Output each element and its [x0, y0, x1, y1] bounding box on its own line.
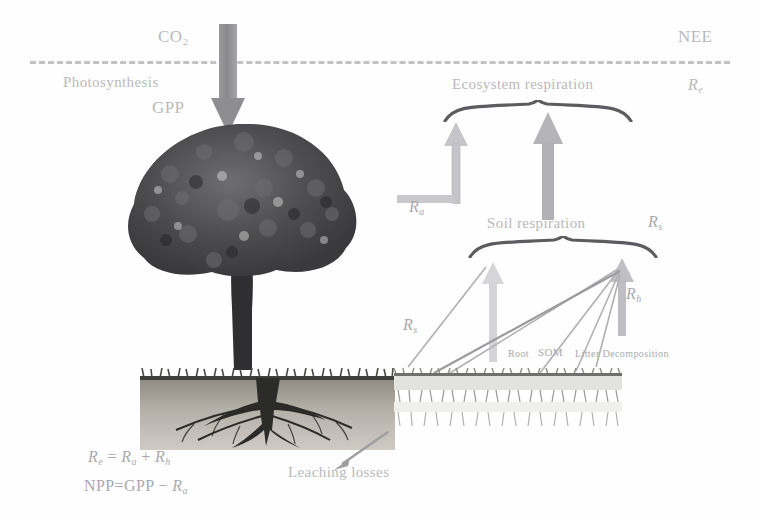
soil-respiration-symbol: R	[648, 213, 658, 230]
soil-respiration-symbol-label: Rs	[648, 213, 662, 232]
up-arrow-icon-soil-respiration	[533, 112, 563, 220]
soil-hatched-layer	[394, 368, 622, 440]
leaching-losses-label: Leaching losses	[288, 464, 389, 481]
eq1-operator-1: =	[107, 448, 116, 465]
nee-symbol: R	[688, 76, 698, 93]
co2-label: CO₂	[158, 27, 189, 47]
ecosystem-respiration-label: Ecosystem respiration	[452, 76, 593, 93]
equation-npp: NPP=GPP − Ra	[84, 477, 188, 496]
eq2-lhs: NPP	[84, 477, 115, 494]
nee-symbol-subscript: e	[698, 84, 703, 95]
nee-label: NEE	[678, 27, 712, 47]
arrow-shaft	[542, 142, 554, 220]
eq1-lhs: R	[88, 448, 98, 465]
eq1-term-2: R	[155, 448, 165, 465]
soil-respiration-subscript: s	[658, 221, 662, 232]
litter-decomposition-label: Litter Decomposition	[575, 348, 669, 359]
root-label: Root	[508, 348, 529, 359]
arrow-shaft	[219, 24, 237, 102]
eq2-term-1: GPP	[124, 477, 154, 494]
tree-icon	[118, 118, 368, 380]
atmosphere-boundary-dashed-line	[30, 61, 730, 64]
figure-canvas: CO₂ NEE Re Photosynthesis GPP Ecosystem …	[0, 0, 761, 518]
autotrophic-subscript: a	[419, 206, 424, 217]
equation-ecosystem-respiration: Re = Ra + Rh	[88, 448, 171, 467]
som-label: SOM	[538, 346, 563, 358]
autotrophic-connector-line	[397, 195, 455, 203]
eq1-operator-2: +	[141, 448, 150, 465]
eq1-term-1-subscript: a	[131, 456, 136, 467]
autotrophic-symbol: R	[409, 198, 419, 215]
eq2-term-2-subscript: a	[182, 485, 187, 496]
eq1-term-1: R	[121, 448, 131, 465]
soil-respiration-label: Soil respiration	[487, 215, 585, 232]
arrow-head	[533, 112, 563, 144]
eq1-term-2-subscript: h	[165, 456, 170, 467]
photosynthesis-label: Photosynthesis	[63, 74, 159, 91]
eq2-operator-1: =	[115, 477, 124, 494]
eq1-lhs-subscript: e	[98, 456, 103, 467]
nee-symbol-label: Re	[688, 76, 703, 95]
eq2-term-2: R	[172, 477, 182, 494]
autotrophic-respiration-symbol-label: Ra	[409, 198, 425, 217]
up-arrow-icon-autotrophic	[443, 122, 469, 204]
eq2-operator-2: −	[158, 477, 167, 494]
gpp-label: GPP	[152, 98, 184, 118]
